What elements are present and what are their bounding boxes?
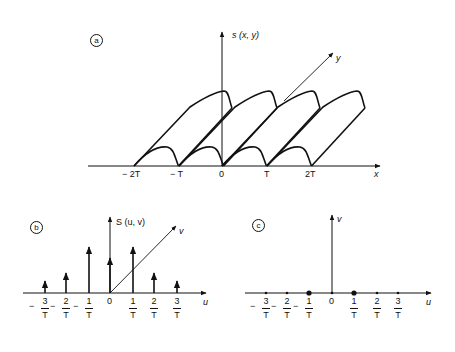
x-tick-label: 0 bbox=[219, 170, 224, 179]
tick-label-fraction: 3T bbox=[170, 297, 184, 320]
back-hump bbox=[267, 91, 365, 166]
periodic-surface bbox=[134, 91, 365, 166]
minus-sign: − bbox=[271, 302, 276, 311]
small-dot bbox=[265, 292, 268, 295]
small-dot bbox=[397, 292, 400, 295]
tick-label-fraction: 2T bbox=[280, 297, 294, 320]
back-hump bbox=[134, 91, 232, 166]
tick-label-fraction: 2T bbox=[147, 297, 161, 320]
impulse-stems bbox=[45, 247, 177, 293]
tick-label-zero: 0 bbox=[329, 297, 334, 306]
y-axis bbox=[284, 53, 333, 101]
large-dot bbox=[306, 290, 311, 295]
small-dot bbox=[331, 292, 334, 295]
panel-c-plot bbox=[245, 215, 431, 296]
minus-sign: − bbox=[293, 302, 298, 311]
panel-b-tag: b bbox=[30, 221, 43, 234]
s-axis-label: s (x, y) bbox=[232, 31, 259, 40]
large-dot bbox=[351, 290, 356, 295]
tick-label-fraction: 1T bbox=[82, 297, 96, 320]
tick-label-fraction: 1T bbox=[126, 297, 140, 320]
v-axis-label: v bbox=[179, 227, 184, 236]
minus-sign: − bbox=[73, 302, 78, 311]
front-hump bbox=[179, 147, 224, 166]
u-axis-label: u bbox=[203, 298, 208, 307]
u-axis-label-c: u bbox=[426, 298, 431, 307]
x-tick-label: − T bbox=[170, 170, 183, 179]
front-hump bbox=[134, 147, 179, 166]
x-tick-label: T bbox=[264, 170, 270, 179]
minus-sign: − bbox=[250, 302, 255, 311]
minus-sign: − bbox=[50, 302, 55, 311]
S-axis-label: S (u, v) bbox=[116, 218, 145, 227]
front-hump bbox=[267, 147, 312, 166]
tick-label-fraction: 2T bbox=[59, 297, 73, 320]
y-axis-label: y bbox=[336, 54, 341, 63]
tick-label-fraction: 2T bbox=[370, 297, 384, 320]
v-axis bbox=[110, 226, 176, 293]
tick-label-fraction: 3T bbox=[391, 297, 405, 320]
v-axis-label-c: v bbox=[337, 215, 342, 224]
small-dot bbox=[286, 292, 289, 295]
front-hump bbox=[222, 147, 267, 166]
x-axis-label: x bbox=[374, 170, 379, 179]
tick-label-fraction: 1T bbox=[347, 297, 361, 320]
minus-sign: − bbox=[29, 302, 34, 311]
hump-edge bbox=[312, 108, 366, 166]
tick-label-zero: 0 bbox=[107, 297, 112, 306]
panel-c-tag: c bbox=[252, 219, 265, 232]
small-dot bbox=[376, 292, 379, 295]
x-tick-label: − 2T bbox=[122, 170, 140, 179]
x-tick-label: 2T bbox=[305, 170, 316, 179]
panel-a-tag: a bbox=[90, 34, 103, 47]
tick-label-fraction: 1T bbox=[302, 297, 316, 320]
back-hump bbox=[222, 91, 320, 166]
